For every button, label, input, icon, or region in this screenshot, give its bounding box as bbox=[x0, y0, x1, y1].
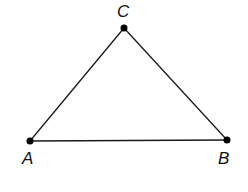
edge-bc bbox=[124, 28, 227, 140]
label-a: A bbox=[21, 149, 33, 168]
triangle-diagram: A B C bbox=[0, 0, 248, 192]
label-c: C bbox=[117, 2, 130, 21]
point-c bbox=[121, 25, 128, 32]
edge-ca bbox=[30, 28, 124, 141]
label-b: B bbox=[218, 149, 229, 168]
point-b bbox=[224, 137, 231, 144]
point-a bbox=[27, 138, 34, 145]
edge-ab bbox=[30, 140, 227, 141]
